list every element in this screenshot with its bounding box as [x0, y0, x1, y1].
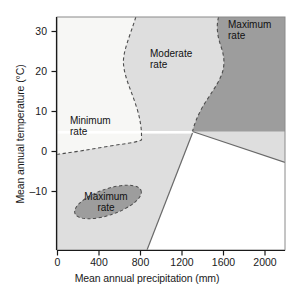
y-tick-label-30: 30: [35, 25, 47, 37]
y-tick-label-10: 10: [35, 105, 47, 117]
x-tick-label-400: 400: [90, 256, 108, 268]
region-label-maximum-rate-upper-line1: Maximum: [228, 19, 271, 30]
x-tick-label-800: 800: [132, 256, 150, 268]
y-axis-title: Mean annual temperature (°C): [14, 54, 26, 214]
region-label-moderate-rate-line1: Moderate: [150, 48, 193, 59]
y-tick-label-20: 20: [35, 65, 47, 77]
region-label-maximum-rate-ellipse-line2: rate: [97, 202, 115, 213]
x-tick-label-1200: 1200: [170, 256, 194, 268]
x-tick-label-0: 0: [55, 256, 61, 268]
region-label-maximum-rate-ellipse-line1: Maximum: [84, 191, 127, 202]
y-tick-label-minus10: –10: [29, 185, 47, 197]
region-label-maximum-rate-upper-line2: rate: [228, 30, 246, 41]
region-label-minimum-rate-line2: rate: [70, 126, 88, 137]
region-label-moderate-rate-line2: rate: [150, 59, 168, 70]
x-tick-label-2000: 2000: [253, 256, 277, 268]
y-tick-label-0: 0: [41, 145, 47, 157]
y-axis-ticks: [52, 32, 57, 192]
x-tick-label-1600: 1600: [212, 256, 236, 268]
region-label-minimum-rate-line1: Minimum: [70, 115, 111, 126]
x-axis-title: Mean annual precipitation (mm): [0, 272, 294, 284]
x-axis-ticks: [58, 251, 266, 256]
precipitation-temperature-rate-chart: 0 400 800 1200 1600 2000 30 20 10 0 –10 …: [0, 0, 294, 298]
chart-figure: 0 400 800 1200 1600 2000 30 20 10 0 –10 …: [0, 0, 294, 298]
